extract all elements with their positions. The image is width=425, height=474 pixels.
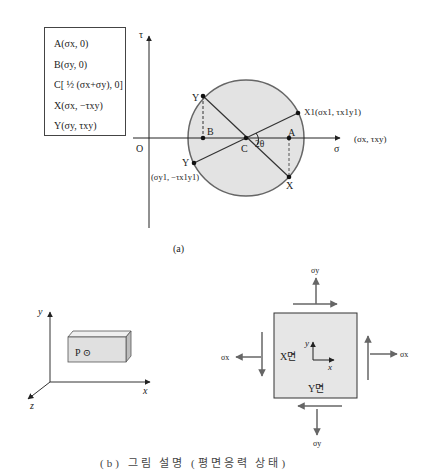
z-axis [28, 382, 50, 399]
panel-label-a: (a) [173, 243, 184, 255]
y-face-label: Y면 [308, 383, 324, 394]
point-x1 [296, 111, 301, 116]
sigma-y-bottom-label: σy [313, 439, 321, 448]
label-b: B [207, 126, 214, 137]
origin-label: O [136, 143, 143, 154]
stress-element: σy σy σx σx y x X면 Y면 [221, 266, 408, 448]
label-y-bottom: Y [182, 157, 189, 168]
point-p-label: P ⊙ [75, 347, 91, 358]
point-x [287, 175, 292, 180]
label-c: C [241, 143, 248, 154]
z-axis-label: z [29, 400, 34, 411]
y-axis-label: y [37, 306, 43, 317]
label-y-top: Y [192, 92, 199, 103]
angle-label: 2θ [255, 139, 265, 149]
inner-y-label: y [304, 338, 309, 348]
sigma-x-left-label: σx [221, 353, 229, 362]
body-sketch: y x z P ⊙ [28, 306, 150, 411]
sigma-x-right-label: σx [400, 350, 408, 359]
figure-caption: (b) 그림 설명 (평면응력 상태) [100, 454, 330, 474]
label-a: A [288, 127, 296, 138]
label-y1-coords: (σy1, −τx1y1) [151, 172, 199, 182]
x-face-label: X면 [280, 351, 296, 362]
point-y1 [192, 161, 197, 166]
mohr-circle-diagram: τ O σ (σx, τxy) Y B C 2θ A X X1(σx1, τx1… [133, 29, 386, 255]
right-coords-note: (σx, τxy) [354, 134, 386, 144]
sigma-label: σ [334, 143, 340, 154]
point-c [244, 136, 249, 141]
block-top [68, 331, 131, 337]
point-b [201, 136, 206, 141]
block-side [126, 331, 131, 362]
tau-label: τ [139, 29, 143, 40]
label-x1: X1(σx1, τx1y1) [304, 107, 361, 117]
label-x: X [286, 180, 294, 191]
point-y-top [201, 94, 206, 99]
sigma-y-top-label: σy [311, 266, 319, 275]
x-axis-label: x [142, 385, 148, 396]
inner-x-label: x [327, 362, 332, 372]
